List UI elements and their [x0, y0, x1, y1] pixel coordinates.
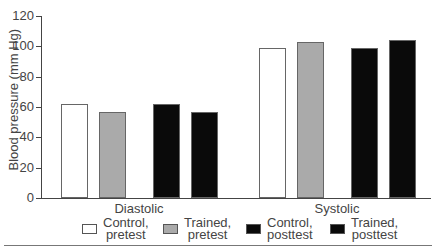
- category-label-systolic: Systolic: [277, 201, 397, 216]
- legend-label: pretest: [184, 229, 231, 241]
- legend-label: pretest: [103, 229, 149, 241]
- y-tick-label: 80: [6, 70, 34, 84]
- bar: [259, 48, 286, 198]
- y-tick-label: 40: [6, 130, 34, 144]
- y-tick-label: 0: [6, 191, 34, 205]
- bar: [389, 40, 416, 198]
- bar: [61, 104, 88, 198]
- category-label-diastolic: Diastolic: [79, 201, 199, 216]
- x-axis-line: [41, 198, 431, 199]
- legend-swatch-icon: [163, 224, 178, 234]
- bar: [297, 42, 324, 198]
- bar-chart: Blood pressure (mm Hg) 020406080100120 D…: [0, 0, 436, 250]
- legend-item-control-pretest: Control, pretest: [82, 217, 149, 241]
- y-tick-label: 120: [6, 9, 34, 23]
- y-tick-label: 60: [6, 100, 34, 114]
- legend-swatch-icon: [330, 224, 345, 234]
- bottom-rule: [4, 245, 432, 246]
- bar: [191, 112, 218, 198]
- legend-item-control-posttest: Control, posttest: [246, 217, 313, 241]
- bar: [99, 112, 126, 198]
- y-tick-label: 20: [6, 161, 34, 175]
- legend-item-trained-posttest: Trained, posttest: [330, 217, 398, 241]
- legend-swatch-icon: [82, 224, 97, 234]
- legend-swatch-icon: [246, 224, 261, 234]
- legend: Control, pretest Trained, pretest Contro…: [0, 217, 436, 243]
- y-tick-label: 100: [6, 39, 34, 53]
- y-axis-line: [41, 16, 42, 199]
- legend-label: posttest: [351, 229, 398, 241]
- legend-label: posttest: [267, 229, 313, 241]
- bar: [351, 48, 378, 198]
- bar: [153, 104, 180, 198]
- legend-item-trained-pretest: Trained, pretest: [163, 217, 231, 241]
